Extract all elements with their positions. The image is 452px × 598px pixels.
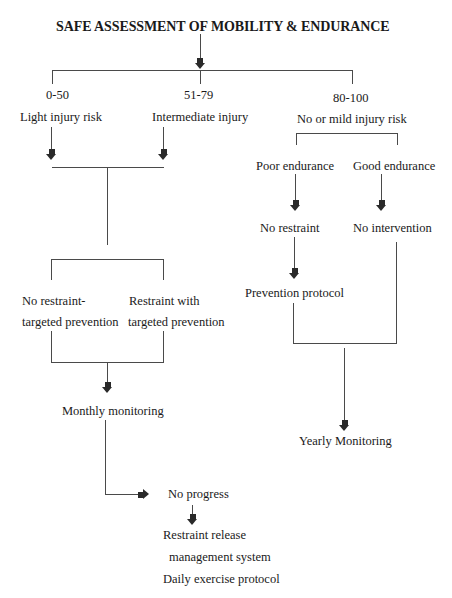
yearly-monitoring: Yearly Monitoring <box>299 435 392 448</box>
range-51-79: 51-79 <box>184 89 213 102</box>
connector-line <box>163 127 164 149</box>
no-restraint-option-line2: targeted prevention <box>22 316 119 329</box>
range-0-50: 0-50 <box>46 89 69 102</box>
connector-line <box>52 70 53 84</box>
connector-line <box>294 237 295 268</box>
daily-exercise-protocol: Daily exercise protocol <box>163 573 280 586</box>
connector-line <box>296 133 398 134</box>
monthly-monitoring: Monthly monitoring <box>62 405 164 418</box>
connector-line <box>352 70 353 84</box>
connector-line <box>296 133 297 145</box>
restraint-option: Restraint with <box>129 295 199 308</box>
connector-line <box>51 127 52 149</box>
connector-line <box>51 331 52 362</box>
connector-line <box>396 242 397 343</box>
connector-line <box>52 70 353 71</box>
restraint-release: Restraint release <box>163 529 246 542</box>
connector-line <box>163 331 164 362</box>
connector-line <box>397 133 398 145</box>
connector-line <box>105 494 138 495</box>
restraint-option-line2: targeted prevention <box>128 316 225 329</box>
prevention-protocol: Prevention protocol <box>245 287 344 300</box>
good-endurance: Good endurance <box>353 160 435 173</box>
connector-line <box>163 259 164 280</box>
connector-line <box>295 174 296 200</box>
connector-line <box>51 259 52 280</box>
connector-line <box>200 70 201 84</box>
connector-line <box>293 343 397 344</box>
no-restraint-option: No restraint- <box>22 295 86 308</box>
no-or-mild-injury-risk: No or mild injury risk <box>297 113 407 126</box>
connector-line <box>107 362 108 382</box>
no-restraint: No restraint <box>260 222 319 235</box>
light-injury-risk: Light injury risk <box>20 111 102 124</box>
diagram-title: SAFE ASSESSMENT OF MOBILITY & ENDURANCE <box>56 19 390 35</box>
no-intervention: No intervention <box>353 222 432 235</box>
management-system: management system <box>169 551 271 564</box>
intermediate-injury: Intermediate injury <box>152 111 248 124</box>
no-progress: No progress <box>168 488 229 501</box>
poor-endurance: Poor endurance <box>256 160 334 173</box>
connector-line <box>293 303 294 343</box>
connector-line <box>105 420 106 495</box>
connector-line <box>51 259 164 260</box>
connector-line <box>107 167 108 245</box>
range-80-100: 80-100 <box>333 92 368 105</box>
connector-line <box>381 174 382 200</box>
connector-line <box>344 348 345 420</box>
connector-line <box>200 34 201 60</box>
